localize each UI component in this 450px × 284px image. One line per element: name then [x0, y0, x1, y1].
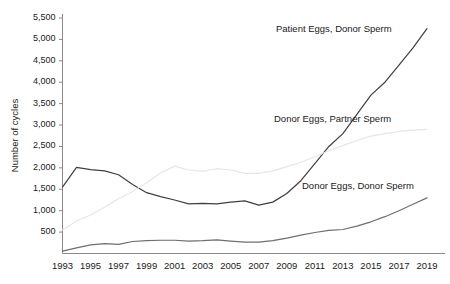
plot-area [0, 0, 450, 284]
y-tick-label: 500 [0, 226, 56, 236]
y-tick-label: 4,500 [0, 55, 56, 65]
y-tick-label: 3,500 [0, 98, 56, 108]
y-tick-label: 5,500 [0, 12, 56, 22]
series-label: Donor Eggs, Donor Sperm [302, 180, 414, 191]
series-line [63, 198, 428, 251]
y-tick-label: 5,000 [0, 33, 56, 43]
y-tick-label: 3,000 [0, 119, 56, 129]
series-lines [63, 29, 428, 251]
y-tick-label: 1,000 [0, 205, 56, 215]
line-chart: Number of cycles 5001,0001,5002,0002,500… [0, 0, 450, 284]
x-tick-label: 2019 [411, 260, 443, 271]
y-tick-label: 2,000 [0, 162, 56, 172]
y-tick-label: 2,500 [0, 140, 56, 150]
y-tick-label: 1,500 [0, 183, 56, 193]
series-label: Patient Eggs, Donor Sperm [276, 23, 392, 34]
series-label: Donor Eggs, Partner Sperm [274, 113, 391, 124]
y-tick-label: 4,000 [0, 76, 56, 86]
y-axis-tick-marks [59, 18, 63, 232]
